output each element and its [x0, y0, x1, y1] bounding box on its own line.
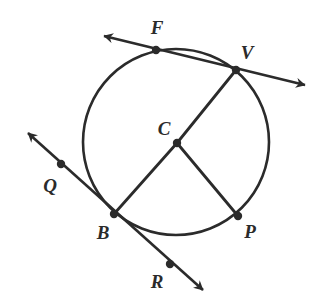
secant-line-fv	[104, 36, 305, 85]
point-dot-b	[110, 210, 118, 218]
geometry-figure: F V C Q B P R	[0, 0, 321, 305]
point-label-r: R	[151, 272, 164, 291]
point-label-b: B	[97, 223, 110, 242]
radius-segment-cp	[177, 143, 238, 216]
point-dot-v	[232, 66, 240, 74]
radius-segment-cb	[114, 143, 177, 214]
point-dot-q	[57, 160, 65, 168]
point-label-f: F	[151, 18, 164, 37]
point-label-c: C	[158, 119, 171, 138]
point-dot-p	[234, 212, 242, 220]
point-label-p: P	[244, 222, 256, 241]
point-dot-c	[173, 139, 181, 147]
geometry-canvas	[0, 0, 321, 305]
point-label-v: V	[241, 43, 254, 62]
point-dot-f	[152, 46, 160, 54]
radius-segment-cv	[177, 70, 236, 143]
point-label-q: Q	[43, 176, 57, 195]
point-dot-r	[166, 260, 174, 268]
